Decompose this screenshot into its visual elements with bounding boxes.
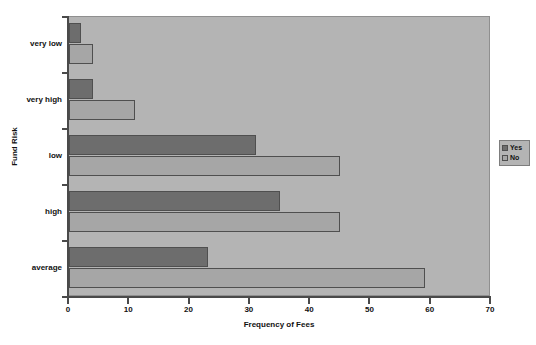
bar-high-yes[interactable] (69, 191, 280, 211)
y-axis-line (67, 16, 69, 297)
x-axis-tick-label-40: 40 (296, 305, 322, 314)
y-axis-tick (62, 16, 68, 18)
x-axis-tick (368, 298, 370, 304)
legend-swatch-yes (502, 145, 508, 151)
plot-area (68, 16, 490, 296)
bar-very-high-yes[interactable] (69, 79, 93, 99)
x-axis-tick-label-30: 30 (236, 305, 262, 314)
x-axis-tick (248, 298, 250, 304)
x-axis-tick-label-0: 0 (55, 305, 81, 314)
bar-low-no[interactable] (69, 156, 340, 176)
x-axis-line (67, 296, 491, 298)
bar-average-no[interactable] (69, 268, 425, 288)
legend: Yes No (499, 140, 530, 166)
y-axis-tick (62, 128, 68, 130)
legend-label-yes: Yes (510, 144, 522, 152)
legend-item-yes[interactable]: Yes (502, 143, 527, 153)
bar-average-yes[interactable] (69, 247, 208, 267)
x-axis-tick (429, 298, 431, 304)
y-axis-label-very-low: very low (2, 39, 62, 48)
bar-group (69, 17, 489, 73)
x-axis-tick-label-10: 10 (115, 305, 141, 314)
y-axis-title: Fund Risk (10, 112, 19, 182)
x-axis-tick-label-70: 70 (477, 305, 503, 314)
bar-group (69, 241, 489, 297)
bar-group (69, 73, 489, 129)
bar-group (69, 129, 489, 185)
y-axis-label-very-high: very high (2, 95, 62, 104)
bar-very-high-no[interactable] (69, 100, 135, 120)
x-axis-tick-label-60: 60 (417, 305, 443, 314)
bar-very-low-yes[interactable] (69, 23, 81, 43)
bar-group (69, 185, 489, 241)
legend-swatch-no (502, 155, 508, 161)
x-axis-tick-label-50: 50 (356, 305, 382, 314)
x-axis-title: Frequency of Fees (68, 320, 490, 329)
x-axis-tick (489, 298, 491, 304)
legend-label-no: No (510, 154, 519, 162)
y-axis-tick (62, 184, 68, 186)
legend-item-no[interactable]: No (502, 153, 527, 163)
x-axis-tick-label-20: 20 (176, 305, 202, 314)
x-axis-tick (188, 298, 190, 304)
y-axis-tick (62, 240, 68, 242)
bar-high-no[interactable] (69, 212, 340, 232)
bar-low-yes[interactable] (69, 135, 256, 155)
x-axis-tick (308, 298, 310, 304)
y-axis-label-average: average (2, 263, 62, 272)
x-axis-tick (127, 298, 129, 304)
chart-title: Fund Risk and Fees (0, 0, 536, 4)
y-axis-tick (62, 72, 68, 74)
bar-very-low-no[interactable] (69, 44, 93, 64)
y-axis-label-high: high (2, 207, 62, 216)
x-axis-tick (67, 298, 69, 304)
